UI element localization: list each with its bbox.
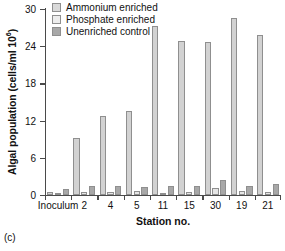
x-axis-tick [255,196,256,200]
legend-item: Unenriched control [52,26,158,37]
y-axis-tick-label: 12 [25,115,36,126]
x-axis-tick [280,196,281,200]
bar [89,186,95,195]
legend-swatch-icon [52,27,61,36]
chart-legend: Ammonium enrichedPhosphate enrichedUnenr… [52,2,158,38]
bar [160,193,166,195]
bar [273,184,279,195]
bar [141,187,147,195]
bar [47,192,53,195]
bar [265,192,271,195]
bar [63,189,69,195]
y-axis-label-tail: ) [6,29,18,32]
x-axis-tick [229,196,230,200]
bar [212,188,218,195]
x-axis-tick-label: 30 [210,200,221,211]
legend-label: Phosphate enriched [66,14,155,25]
x-axis-tick-label: 4 [108,200,114,211]
y-axis-tick-label: 6 [30,152,36,163]
bar [73,138,79,195]
y-axis-tick-label: 0 [30,190,36,201]
x-axis-tick [97,196,98,200]
bar-group [176,9,202,195]
x-axis-tick [202,196,203,200]
bar [168,186,174,195]
bar [239,191,245,195]
y-axis-label-exponent: 6 [5,32,12,36]
bar [100,116,106,195]
bar [194,186,200,195]
bar-group [202,9,228,195]
x-axis-tick-label: 19 [236,200,247,211]
x-axis-tick [176,196,177,200]
y-axis-tick-label: 18 [25,78,36,89]
legend-label: Ammonium enriched [66,2,158,13]
bar [81,192,87,195]
bar [152,26,158,195]
legend-swatch-icon [52,15,61,24]
bar [107,192,113,195]
y-axis-tick-label: 30 [25,4,36,15]
x-axis-tick-label: 15 [184,200,195,211]
y-axis-tick-label: 24 [25,41,36,52]
x-axis-tick-label: 21 [262,200,273,211]
bar [134,191,140,195]
y-axis-label-text: Algal population (cells/ml 10 [6,36,18,175]
bar [178,41,184,195]
x-axis-tick-label: 2 [82,200,88,211]
x-axis-tick-label: 5 [134,200,140,211]
legend-swatch-icon [52,3,61,12]
x-axis-tick [124,196,125,200]
legend-label: Unenriched control [66,26,150,37]
bar [115,186,121,195]
bar [257,35,263,195]
y-axis-label: Algal population (cells/ml 106) [2,2,16,202]
x-axis-tick [150,196,151,200]
legend-item: Ammonium enriched [52,2,158,13]
panel-caption: (c) [4,232,16,243]
bar [205,42,211,195]
x-axis-label: Station no. [45,215,281,227]
bar [55,193,61,195]
bar [246,186,252,195]
legend-item: Phosphate enriched [52,14,158,25]
bar-group [229,9,255,195]
bar-group [255,9,281,195]
x-axis-tick-label: 11 [158,200,168,211]
bar [220,180,226,195]
x-axis-tick-label: Inoculum [38,200,79,211]
bar [231,18,237,195]
bar [186,192,192,195]
figure-panel-c: Algal population (cells/ml 106) 06121824… [0,0,285,251]
bar [126,111,132,195]
